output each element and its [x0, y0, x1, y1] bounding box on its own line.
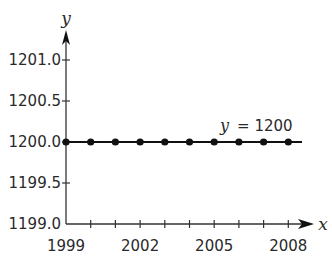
line-annotation: y = 1200: [219, 116, 293, 135]
x-tick-label: 2002: [121, 237, 159, 255]
y-tick-label: 1199.0: [9, 215, 62, 233]
data-point: [211, 138, 218, 145]
x-tick-label: 2005: [195, 237, 233, 255]
x-axis-label: x: [318, 214, 328, 234]
data-point: [112, 138, 119, 145]
line-chart: 1201.01200.51200.01199.51199.0 y x 19992…: [0, 0, 332, 275]
data-point: [186, 138, 193, 145]
data-point: [62, 138, 69, 145]
y-tick-label: 1200.5: [9, 92, 62, 110]
data-point: [285, 138, 292, 145]
data-point: [87, 138, 94, 145]
y-axis-label: y: [60, 8, 71, 28]
data-point: [137, 138, 144, 145]
x-tick-label: 1999: [47, 237, 85, 255]
data-point: [161, 138, 168, 145]
y-tick-label: 1200.0: [9, 133, 62, 151]
y-tick-label: 1199.5: [9, 174, 62, 192]
y-axis-ticks: 1201.01200.51200.01199.51199.0: [9, 51, 71, 233]
data-point: [260, 138, 267, 145]
x-axis-tick-labels: 1999200220052008: [47, 237, 307, 255]
y-tick-label: 1201.0: [9, 51, 62, 69]
data-point: [235, 138, 242, 145]
x-tick-label: 2008: [269, 237, 307, 255]
